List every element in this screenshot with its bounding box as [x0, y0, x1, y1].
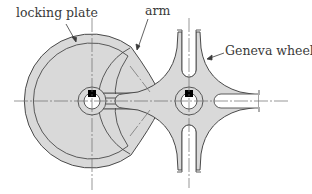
geneva-wheel-label: Geneva wheel	[225, 45, 312, 58]
locking-plate-label: locking plate	[16, 7, 98, 20]
diagram-canvas	[0, 0, 312, 194]
arm-label: arm	[145, 5, 170, 18]
geneva-mechanism-diagram: locking plate arm Geneva wheel	[0, 0, 312, 194]
